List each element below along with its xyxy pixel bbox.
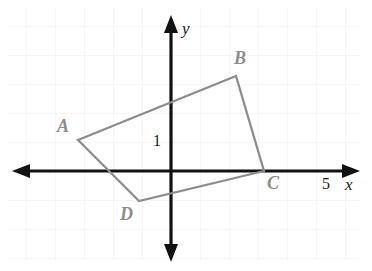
y-axis-label: y xyxy=(182,20,190,37)
y-unit-label: 1 xyxy=(153,133,161,149)
vertex-label-a: A xyxy=(57,117,69,135)
x-axis-label: x xyxy=(345,176,353,193)
vertex-label-b: B xyxy=(234,49,246,67)
vertex-label-d: D xyxy=(120,205,133,223)
vertex-label-c: C xyxy=(267,174,279,192)
x-unit-label: 5 xyxy=(322,176,330,192)
coordinate-plane-svg xyxy=(0,0,372,271)
coordinate-plane-figure: A B C D y x 1 5 xyxy=(0,0,372,271)
